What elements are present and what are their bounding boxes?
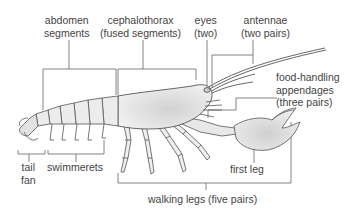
label-text: walking legs (five pairs) xyxy=(148,193,257,206)
label-antennae: antennae (two pairs) xyxy=(241,14,290,39)
label-text: food-handling xyxy=(276,71,340,84)
label-text: first leg xyxy=(230,163,264,176)
label-food-handling-appendages: food-handling appendages (three pairs) xyxy=(276,71,340,109)
label-text: swimmerets xyxy=(47,161,103,174)
label-text: antennae xyxy=(241,14,290,27)
label-swimmerets: swimmerets xyxy=(47,161,103,174)
label-cephalothorax: cephalothorax (fused segments) xyxy=(100,14,181,39)
label-text: (fused segments) xyxy=(100,27,181,40)
label-text: fan xyxy=(21,174,36,187)
label-eyes: eyes (two) xyxy=(194,14,217,39)
label-text: (two pairs) xyxy=(241,27,290,40)
label-walking-legs: walking legs (five pairs) xyxy=(148,193,257,206)
label-first-leg: first leg xyxy=(230,163,264,176)
crayfish-diagram: abdomen segments cephalothorax (fused se… xyxy=(0,0,357,213)
label-text: abdomen xyxy=(44,14,90,27)
label-text: cephalothorax xyxy=(100,14,181,27)
label-abdomen-segments: abdomen segments xyxy=(44,14,90,39)
label-text: (three pairs) xyxy=(276,96,340,109)
label-text: appendages xyxy=(276,84,340,97)
label-text: eyes xyxy=(194,14,217,27)
label-text: tail xyxy=(21,161,36,174)
abdomen-body xyxy=(19,96,118,140)
label-text: segments xyxy=(44,27,90,40)
label-text: (two) xyxy=(194,27,217,40)
label-tail-fan: tail fan xyxy=(21,161,36,186)
